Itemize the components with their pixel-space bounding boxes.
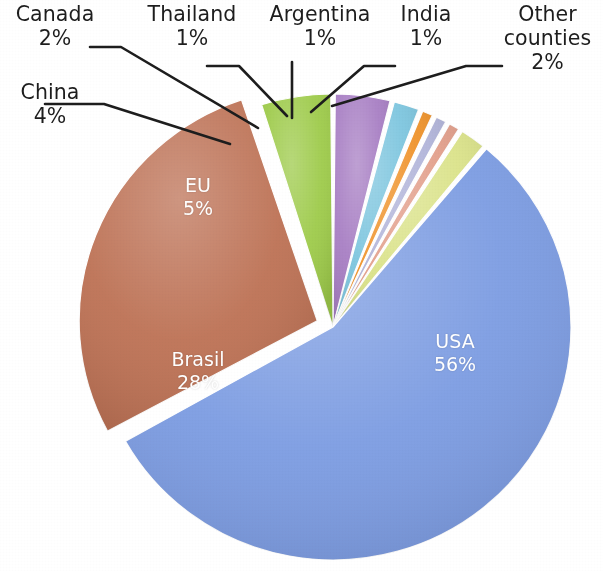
slice-label-argentina: Argentina 1% xyxy=(256,2,384,50)
slice-label-usa: USA 56% xyxy=(404,330,506,376)
pie-chart-figure: Canada 2% China 4% Thailand 1% Argentina… xyxy=(0,0,603,571)
pie-slices-group xyxy=(79,94,571,560)
slice-label-china: China 4% xyxy=(0,80,100,128)
slice-label-other-counties-name-line1: Other xyxy=(518,2,577,26)
slice-label-india-name: India xyxy=(401,2,452,26)
slice-label-other-counties-name-line2: counties xyxy=(504,26,592,50)
slice-label-india-pct: 1% xyxy=(385,26,467,50)
slice-label-usa-pct: 56% xyxy=(404,353,506,376)
slice-label-china-pct: 4% xyxy=(0,104,100,128)
slice-label-argentina-pct: 1% xyxy=(256,26,384,50)
slice-label-thailand: Thailand 1% xyxy=(134,2,250,50)
slice-label-thailand-name: Thailand xyxy=(148,2,237,26)
slice-label-other-counties: Other counties 2% xyxy=(492,2,603,74)
slice-label-eu-pct: 5% xyxy=(160,197,236,220)
slice-label-eu-name: EU xyxy=(185,174,211,196)
slice-label-india: India 1% xyxy=(385,2,467,50)
slice-label-argentina-name: Argentina xyxy=(270,2,371,26)
slice-label-brasil: Brasil 28% xyxy=(140,348,256,394)
slice-label-eu: EU 5% xyxy=(160,174,236,220)
slice-label-other-counties-pct: 2% xyxy=(492,50,603,74)
slice-label-canada-name: Canada xyxy=(16,2,95,26)
slice-label-china-name: China xyxy=(20,80,79,104)
slice-label-canada-pct: 2% xyxy=(0,26,110,50)
slice-label-brasil-name: Brasil xyxy=(172,348,225,370)
slice-label-brasil-pct: 28% xyxy=(140,371,256,394)
slice-label-thailand-pct: 1% xyxy=(134,26,250,50)
slice-label-usa-name: USA xyxy=(435,330,474,352)
slice-label-canada: Canada 2% xyxy=(0,2,110,50)
